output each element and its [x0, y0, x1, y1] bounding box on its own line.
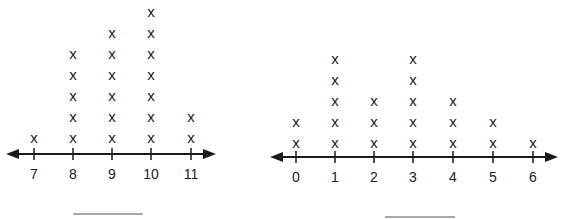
- x-mark: x: [147, 66, 155, 83]
- x-mark: x: [108, 24, 116, 41]
- x-mark: x: [69, 45, 77, 62]
- x-mark: x: [69, 129, 77, 146]
- left-arrow-icon: [6, 149, 19, 159]
- x-mark: x: [409, 92, 417, 109]
- x-mark: x: [292, 113, 300, 130]
- x-mark: x: [331, 71, 339, 88]
- tick-label: 3: [409, 169, 417, 185]
- tick-label: 6: [529, 169, 537, 185]
- x-mark: x: [331, 92, 339, 109]
- x-mark: x: [370, 92, 378, 109]
- tick-label: 9: [108, 166, 116, 182]
- x-mark: x: [292, 134, 300, 151]
- x-mark: x: [409, 113, 417, 130]
- x-mark: x: [449, 113, 457, 130]
- x-mark: x: [331, 113, 339, 130]
- tick-label: 5: [489, 169, 497, 185]
- line-plots: 7x8xxxxx9xxxxxx10xxxxxxx11xx0xx1xxxxx2xx…: [0, 0, 567, 219]
- x-mark: x: [147, 87, 155, 104]
- x-mark: x: [108, 66, 116, 83]
- x-mark: x: [331, 50, 339, 67]
- tick-label: 7: [30, 166, 38, 182]
- x-mark: x: [147, 45, 155, 62]
- x-mark: x: [187, 108, 195, 125]
- tick-label: 0: [292, 169, 300, 185]
- tick-label: 10: [143, 166, 159, 182]
- x-mark: x: [370, 113, 378, 130]
- x-mark: x: [370, 134, 378, 151]
- x-mark: x: [108, 87, 116, 104]
- tick-label: 1: [331, 169, 339, 185]
- x-mark: x: [409, 71, 417, 88]
- x-mark: x: [69, 108, 77, 125]
- x-mark: x: [489, 113, 497, 130]
- x-mark: x: [187, 129, 195, 146]
- tick-label: 2: [370, 169, 378, 185]
- right-arrow-icon: [203, 149, 216, 159]
- x-mark: x: [147, 108, 155, 125]
- x-mark: x: [108, 45, 116, 62]
- x-mark: x: [449, 134, 457, 151]
- x-mark: x: [489, 134, 497, 151]
- tick-label: 4: [449, 169, 457, 185]
- tick-label: 11: [184, 166, 199, 182]
- x-mark: x: [30, 129, 38, 146]
- left-arrow-icon: [270, 152, 283, 162]
- x-mark: x: [529, 134, 537, 151]
- x-mark: x: [147, 24, 155, 41]
- right-arrow-icon: [545, 152, 558, 162]
- x-mark: x: [108, 108, 116, 125]
- x-mark: x: [69, 66, 77, 83]
- x-mark: x: [409, 50, 417, 67]
- x-mark: x: [331, 134, 339, 151]
- x-mark: x: [449, 92, 457, 109]
- x-mark: x: [69, 87, 77, 104]
- x-mark: x: [108, 129, 116, 146]
- x-mark: x: [409, 134, 417, 151]
- x-mark: x: [147, 129, 155, 146]
- tick-label: 8: [69, 166, 77, 182]
- x-mark: x: [147, 3, 155, 20]
